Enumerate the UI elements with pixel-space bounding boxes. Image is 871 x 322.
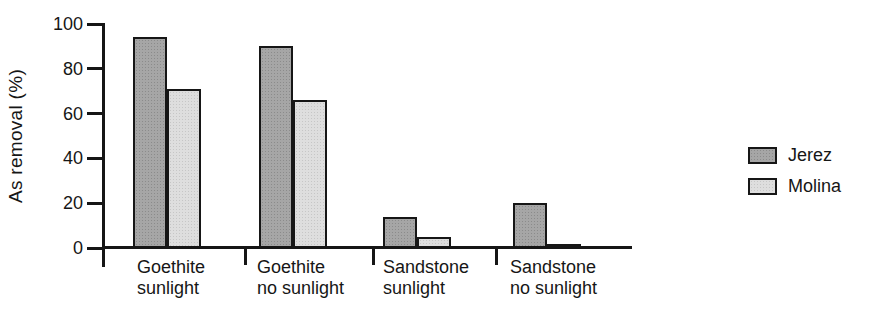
y-tick-80 [87, 67, 105, 70]
bar-molina-group2 [293, 100, 327, 248]
bar-jerez-group1 [133, 37, 167, 248]
y-tick-0 [87, 247, 105, 250]
y-tick-label-80: 80 [30, 58, 83, 80]
x-group-tick-3 [495, 246, 498, 265]
category-label-2: Goethite no sunlight [257, 257, 344, 299]
category-label-4: Sandstone no sunlight [510, 257, 597, 299]
jerez-legend-swatch [748, 147, 777, 164]
y-tick-100 [87, 23, 105, 26]
y-tick-label-100: 100 [30, 13, 83, 35]
molina-legend-swatch [748, 178, 777, 195]
bar-molina-group4 [547, 244, 581, 248]
bar-molina-group3 [417, 237, 451, 248]
bar-molina-group1 [167, 89, 201, 248]
y-tick-label-20: 20 [30, 192, 83, 214]
legend: Jerez Molina [748, 146, 841, 208]
bar-jerez-group2 [259, 46, 293, 248]
y-tick-label-40: 40 [30, 147, 83, 169]
bar-chart-figure: As removal (%) 020406080100Goethite sunl… [0, 0, 871, 322]
jerez-legend-label: Jerez [788, 146, 832, 164]
y-tick-60 [87, 112, 105, 115]
y-tick-label-0: 0 [30, 237, 83, 259]
molina-legend-label: Molina [788, 177, 841, 195]
legend-item-jerez: Jerez [748, 146, 841, 164]
legend-item-molina: Molina [748, 177, 841, 195]
category-label-1: Goethite sunlight [137, 257, 205, 299]
x-group-tick-1 [244, 246, 247, 265]
category-label-3: Sandstone sunlight [383, 257, 469, 299]
y-tick-20 [87, 202, 105, 205]
x-group-tick-2 [372, 246, 375, 265]
bar-jerez-group3 [383, 217, 417, 248]
plot-area: 020406080100Goethite sunlightGoethite no… [0, 0, 871, 322]
y-tick-label-60: 60 [30, 103, 83, 125]
y-axis-line [102, 24, 105, 267]
bar-jerez-group4 [513, 203, 547, 248]
y-tick-40 [87, 157, 105, 160]
